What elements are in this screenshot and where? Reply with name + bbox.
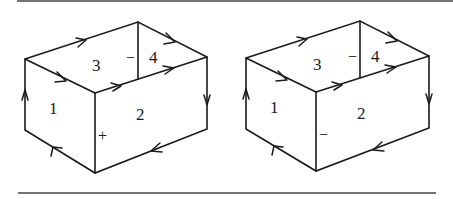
sign-inner-back-edge: −: [348, 48, 357, 65]
face-label-2: 2: [136, 105, 145, 124]
face-label-3: 3: [92, 56, 101, 75]
face-label-2: 2: [357, 104, 366, 123]
face-label-4: 4: [371, 47, 380, 66]
face-label-1: 1: [49, 99, 58, 118]
oriented-box-diagrams: 1 2 3 4 − + 1 2 3 4 − −: [0, 0, 453, 199]
face-label-1: 1: [270, 98, 279, 117]
face-label-3: 3: [313, 55, 322, 74]
sign-inner-back-edge: −: [126, 49, 135, 66]
sign-front-vertical-edge: +: [98, 127, 107, 144]
right-box-figure: 1 2 3 4 − −: [243, 21, 432, 171]
left-box-figure: 1 2 3 4 − +: [22, 22, 210, 173]
sign-front-vertical-edge: −: [319, 126, 328, 143]
face-label-4: 4: [149, 48, 158, 67]
